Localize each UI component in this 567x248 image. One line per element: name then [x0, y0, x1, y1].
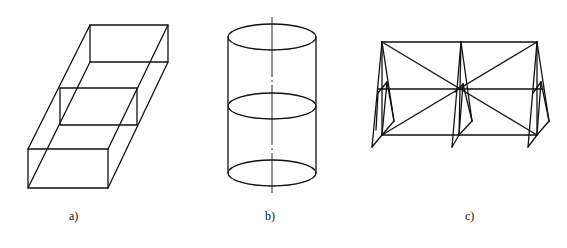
figure-c-truss	[372, 42, 549, 147]
figure-b-cylinder	[228, 17, 316, 193]
figure-a-box	[28, 25, 168, 188]
figure-a-label: a)	[69, 209, 78, 224]
left-support	[372, 42, 394, 147]
back-rectangle	[90, 25, 168, 62]
diagram-canvas	[0, 0, 567, 248]
edge-top-right	[108, 25, 168, 149]
middle-rectangle	[60, 88, 137, 125]
figure-b-label: b)	[265, 209, 275, 224]
front-rectangle	[28, 149, 108, 188]
edge-top-left	[28, 25, 90, 149]
figure-c-label: c)	[465, 209, 474, 224]
